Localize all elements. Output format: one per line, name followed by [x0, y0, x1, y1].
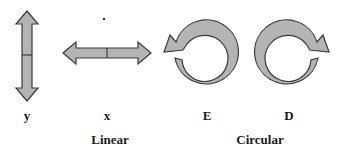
label-D: D: [280, 108, 298, 124]
label-y: y: [18, 108, 36, 124]
horizontal-double-arrow-icon: [63, 42, 151, 64]
motion-diagram: y x E D Linear Circular: [0, 0, 344, 151]
group-label-linear: Linear: [70, 132, 150, 148]
label-E: E: [198, 108, 216, 124]
stray-mark: [103, 18, 105, 20]
label-x: x: [98, 108, 116, 124]
vertical-double-arrow-icon: [16, 11, 38, 101]
counterclockwise-arrow-icon: [164, 20, 238, 84]
group-label-circular: Circular: [215, 132, 305, 148]
clockwise-arrow-icon: [255, 20, 329, 84]
diagram-canvas: [0, 0, 344, 151]
